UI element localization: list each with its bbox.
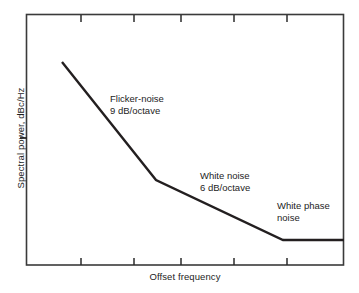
annotation-white-phase-noise-line2: noise [277, 212, 330, 224]
y-axis-label: Spectral power, dBc/Hz [14, 12, 28, 264]
plot-frame [27, 15, 344, 266]
annotation-white-phase-noise-line1: White phase [277, 200, 330, 211]
annotation-white-phase-noise: White phase noise [277, 200, 330, 223]
annotation-flicker-noise-line2: 9 dB/octave [110, 105, 164, 117]
plot-area-svg [0, 0, 359, 293]
annotation-white-noise-line1: White noise [200, 170, 250, 181]
annotation-white-noise: White noise 6 dB/octave [200, 170, 250, 193]
annotation-white-noise-line2: 6 dB/octave [200, 182, 250, 194]
annotation-flicker-noise-line1: Flicker-noise [110, 93, 164, 104]
phase-noise-chart-figure: Spectral power, dBc/Hz Offset frequency … [0, 0, 359, 293]
annotation-flicker-noise: Flicker-noise 9 dB/octave [110, 93, 164, 116]
x-axis-label: Offset frequency [26, 271, 344, 282]
